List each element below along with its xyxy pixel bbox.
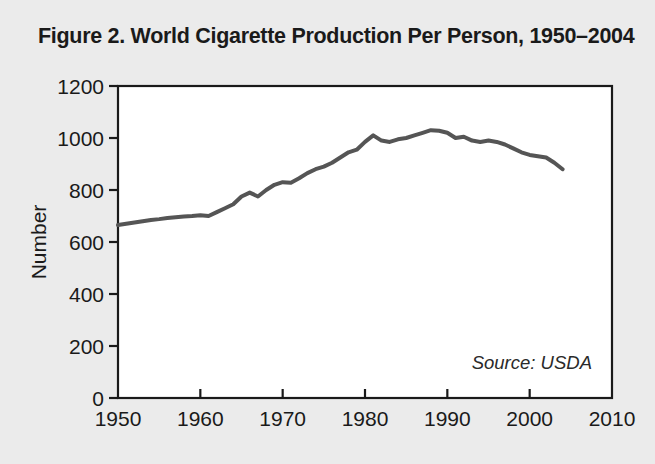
x-tick-label: 1950	[95, 407, 142, 430]
x-tick-label: 2010	[589, 407, 636, 430]
y-axis-title: Number	[27, 205, 50, 280]
plot-area-wrapper: 020040060080010001200 195019601970198019…	[0, 0, 655, 464]
y-tick-label: 600	[69, 231, 104, 254]
x-tick-label: 1980	[342, 407, 389, 430]
line-chart-svg: 020040060080010001200 195019601970198019…	[0, 0, 655, 464]
y-tick-label: 200	[69, 335, 104, 358]
x-tick-label: 1960	[177, 407, 224, 430]
x-tick-label: 1990	[424, 407, 471, 430]
figure-container: Figure 2. World Cigarette Production Per…	[0, 0, 655, 464]
y-axis-tick-labels: 020040060080010001200	[57, 75, 104, 410]
y-tick-label: 1200	[57, 75, 104, 98]
x-tick-label: 1970	[259, 407, 306, 430]
x-axis-tick-labels: 1950196019701980199020002010	[95, 407, 636, 430]
source-annotation: Source: USDA	[472, 352, 592, 373]
y-tick-label: 400	[69, 283, 104, 306]
y-tick-label: 1000	[57, 127, 104, 150]
y-axis-ticks	[109, 86, 118, 398]
x-tick-label: 2000	[506, 407, 553, 430]
y-tick-label: 800	[69, 179, 104, 202]
